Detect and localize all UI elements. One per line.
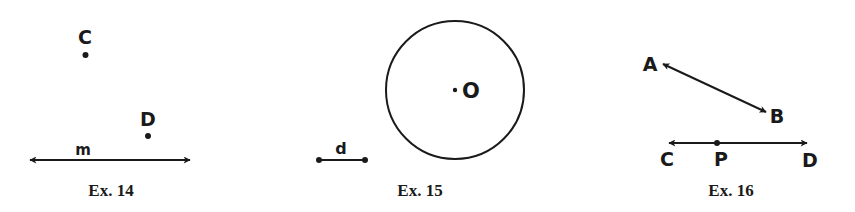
point-b-label: B bbox=[770, 105, 784, 127]
center-o-label: O bbox=[462, 79, 480, 103]
point-p-dot bbox=[714, 140, 720, 146]
line-ab bbox=[663, 64, 766, 112]
caption-ex16: Ex. 16 bbox=[708, 181, 753, 200]
point-p-label: P bbox=[714, 148, 728, 170]
caption-ex15: Ex. 15 bbox=[397, 181, 442, 200]
point-d-label: D bbox=[140, 108, 156, 130]
point-c-label-ex16: C bbox=[660, 148, 674, 170]
line-m-label: m bbox=[75, 141, 91, 159]
segment-d-label: d bbox=[335, 139, 346, 158]
caption-ex14: Ex. 14 bbox=[88, 181, 134, 200]
figure-canvas: C D m Ex. 14 O d Ex. 15 A B C P D Ex. 16 bbox=[0, 0, 855, 212]
point-d-label-ex16: D bbox=[802, 149, 818, 171]
figure-ex15: O d Ex. 15 bbox=[316, 21, 524, 200]
segment-d-endpoint-right bbox=[362, 157, 368, 163]
segment-d-endpoint-left bbox=[316, 157, 322, 163]
center-o-dot bbox=[453, 88, 457, 92]
point-c-dot bbox=[83, 52, 89, 58]
point-c-label: C bbox=[78, 26, 92, 48]
figure-ex14: C D m Ex. 14 bbox=[30, 26, 190, 200]
point-d-dot bbox=[145, 133, 151, 139]
point-a-label: A bbox=[643, 53, 658, 75]
figure-ex16: A B C P D Ex. 16 bbox=[643, 53, 818, 200]
